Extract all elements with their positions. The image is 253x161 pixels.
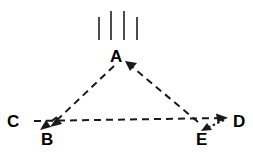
edge-e-to-a [130, 65, 198, 122]
edge-a-to-b [55, 66, 114, 122]
vertical-tick-marks [99, 11, 137, 40]
vertex-label-b: B [41, 131, 53, 148]
vertex-label-c: C [7, 113, 19, 130]
arrowhead-at-a [125, 61, 137, 71]
vertex-label-a: A [110, 48, 122, 65]
diagram-canvas: A B C D E [0, 0, 253, 161]
vector-diagram-figure [0, 0, 253, 161]
arrowhead-at-b-from-a [50, 117, 62, 127]
vertex-label-d: D [233, 113, 245, 130]
vertex-label-e: E [196, 131, 207, 148]
